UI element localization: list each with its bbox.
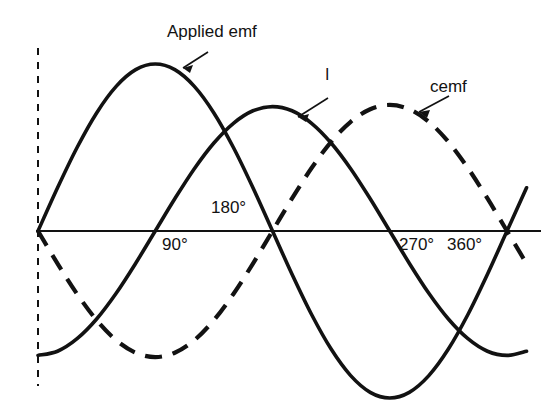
axis-tick-label-180: 180° xyxy=(211,198,246,218)
label-cemf: cemf xyxy=(430,77,467,97)
annotation-arrow-applied-emf xyxy=(183,52,208,73)
axis-tick-label-360: 360° xyxy=(447,235,482,255)
axis-tick-label-270: 270° xyxy=(399,235,434,255)
annotation-arrow-cemf xyxy=(419,96,449,118)
axis-tick-label-90: 90° xyxy=(162,235,188,255)
annotation-arrow-current-i xyxy=(298,98,328,122)
label-applied-emf: Applied emf xyxy=(167,22,257,42)
waveform-figure: Applied emf I cemf 90° 180° 270° 360° xyxy=(0,0,549,420)
label-current-i: I xyxy=(325,66,329,84)
waveform-svg xyxy=(0,0,549,420)
